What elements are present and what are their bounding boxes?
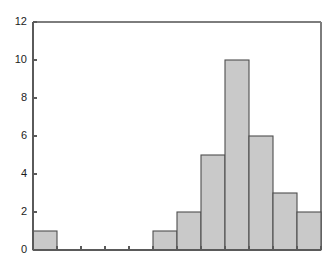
histogram-bar	[201, 155, 225, 250]
histogram-bar	[177, 212, 201, 250]
histogram-bar	[297, 212, 321, 250]
y-axis-tick-label: 8	[21, 91, 27, 103]
y-axis-tick-label: 10	[15, 53, 27, 65]
chart-canvas: 024681012	[0, 0, 336, 279]
histogram-bar	[249, 136, 273, 250]
histogram-bar	[225, 60, 249, 250]
y-axis-tick-label: 6	[21, 129, 27, 141]
histogram-bar	[153, 231, 177, 250]
y-axis-tick-label: 4	[21, 167, 27, 179]
y-axis-tick-label: 0	[21, 243, 27, 255]
y-axis-tick-label: 2	[21, 205, 27, 217]
histogram-chart: 024681012	[0, 0, 336, 279]
histogram-bar	[33, 231, 57, 250]
histogram-bar	[273, 193, 297, 250]
y-axis-tick-label: 12	[15, 15, 27, 27]
